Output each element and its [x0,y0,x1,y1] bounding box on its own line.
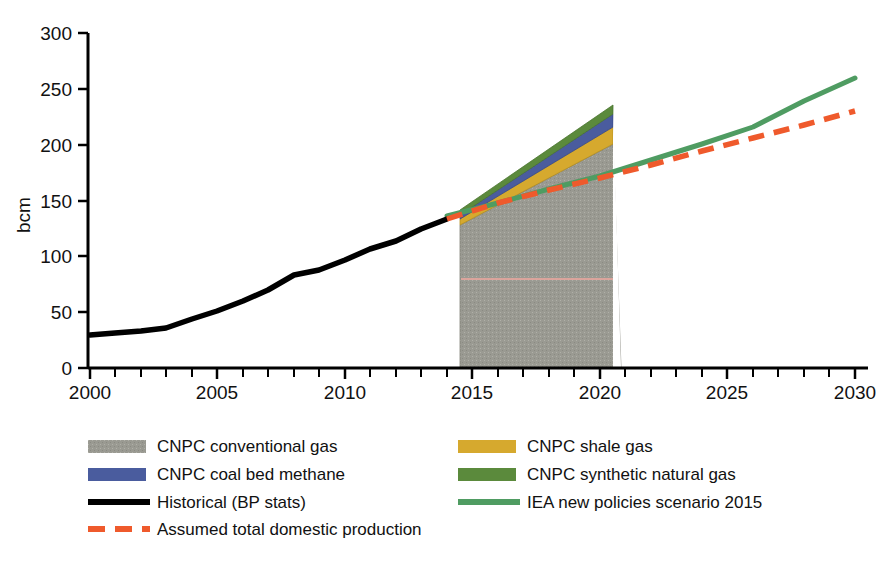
x-tick-label-2030: 2030 [834,382,876,403]
y-tick-label-200: 200 [40,135,72,156]
legend-item-assumed-total-domestic-production[interactable]: Assumed total domestic production [88,520,422,539]
legend-swatch-synthetic-natural-gas-icon [458,468,516,481]
y-axis-title: bcm [13,197,34,233]
legend-item-cnpc-synthetic-natural-gas[interactable]: CNPC synthetic natural gas [458,465,736,484]
legend-item-cnpc-shale-gas[interactable]: CNPC shale gas [458,437,653,456]
y-tick-label-100: 100 [40,246,72,267]
legend-item-iea-new-policies-scenario[interactable]: IEA new policies scenario 2015 [458,493,762,512]
legend-swatch-shale-gas-icon [458,440,516,453]
x-tick-label-2020: 2020 [579,382,621,403]
x-tick-label-2015: 2015 [451,382,493,403]
legend-swatch-conventional-gas-icon [88,440,146,453]
x-tick-label-2000: 2000 [69,382,111,403]
x-tick-label-2025: 2025 [706,382,748,403]
gas-production-chart: 0 50 100 150 200 250 300 bcm [0,0,887,566]
legend-label-historical: Historical (BP stats) [157,493,306,512]
chart-legend: CNPC conventional gas CNPC coal bed meth… [88,437,762,539]
legend-item-historical-bp-stats[interactable]: Historical (BP stats) [88,493,306,512]
y-tick-label-150: 150 [40,191,72,212]
legend-label-coal-bed-methane: CNPC coal bed methane [157,465,345,484]
legend-label-conventional-gas: CNPC conventional gas [157,437,337,456]
legend-label-assumed-production: Assumed total domestic production [157,520,422,539]
y-tick-label-250: 250 [40,79,72,100]
legend-label-iea-scenario: IEA new policies scenario 2015 [527,493,762,512]
x-tick-label-2005: 2005 [196,382,238,403]
y-tick-label-50: 50 [51,302,72,323]
legend-item-cnpc-conventional-gas[interactable]: CNPC conventional gas [88,437,337,456]
y-tick-label-0: 0 [61,358,72,379]
chart-svg: 0 50 100 150 200 250 300 bcm [0,0,887,566]
legend-label-shale-gas: CNPC shale gas [527,437,653,456]
legend-label-synthetic-natural-gas: CNPC synthetic natural gas [527,465,736,484]
legend-item-cnpc-coal-bed-methane[interactable]: CNPC coal bed methane [88,465,345,484]
legend-swatch-coal-bed-methane-icon [88,468,146,481]
x-tick-label-2010: 2010 [324,382,366,403]
y-tick-label-300: 300 [40,23,72,44]
